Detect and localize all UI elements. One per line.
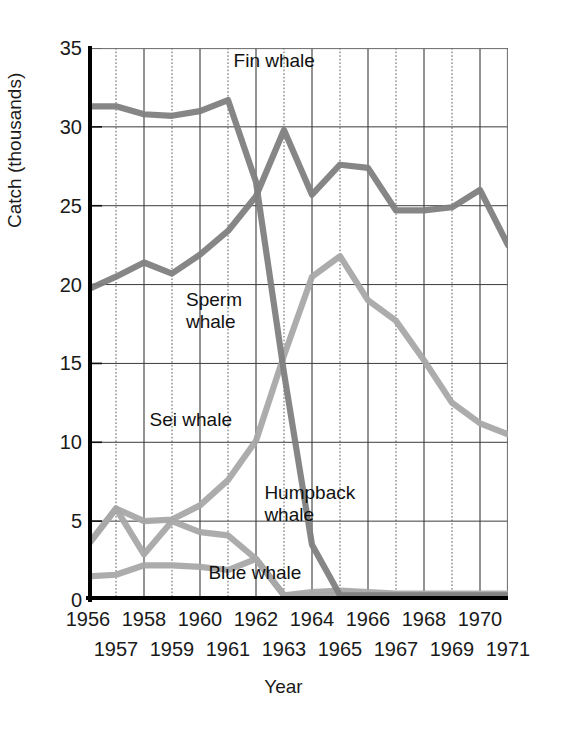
whale-catch-chart: Catch (thousands) 05101520253035 1956195… <box>0 0 567 729</box>
x-tick-row-even: 19561958196019621964196619681970 <box>88 606 518 634</box>
y-tick-25: 25 <box>42 196 82 216</box>
x-tick-1965: 1965 <box>312 636 368 662</box>
series-line-sperm-whale <box>88 130 508 289</box>
annotation-blue-whale: Blue whale <box>208 562 301 584</box>
x-tick-1967: 1967 <box>368 636 424 662</box>
x-tick-1964: 1964 <box>284 606 340 632</box>
y-tick-5: 5 <box>42 511 82 531</box>
x-tick-row-odd: 19571959196119631965196719691971 <box>88 636 518 664</box>
x-axis-title: Year <box>0 676 567 698</box>
y-axis-title: Catch (thousands) <box>4 0 26 228</box>
x-tick-1960: 1960 <box>172 606 228 632</box>
x-tick-1958: 1958 <box>116 606 172 632</box>
x-axis-tick-labels: 19561958196019621964196619681970 1957195… <box>88 606 518 672</box>
annotation-sperm: Sperm whale <box>186 289 242 333</box>
y-tick-15: 15 <box>42 353 82 373</box>
x-tick-1968: 1968 <box>396 606 452 632</box>
x-tick-1961: 1961 <box>200 636 256 662</box>
x-axis-spine <box>86 596 508 600</box>
x-tick-1959: 1959 <box>144 636 200 662</box>
x-tick-1969: 1969 <box>424 636 480 662</box>
annotation-fin-whale: Fin whale <box>234 50 315 72</box>
x-tick-1966: 1966 <box>340 606 396 632</box>
x-tick-1957: 1957 <box>88 636 144 662</box>
x-tick-1971: 1971 <box>480 636 536 662</box>
x-tick-1970: 1970 <box>452 606 508 632</box>
y-tick-10: 10 <box>42 432 82 452</box>
x-tick-1962: 1962 <box>228 606 284 632</box>
annotation-humpback: Humpback whale <box>264 482 355 526</box>
x-tick-1956: 1956 <box>60 606 116 632</box>
y-tick-20: 20 <box>42 275 82 295</box>
y-tick-30: 30 <box>42 117 82 137</box>
y-tick-35: 35 <box>42 38 82 58</box>
y-axis-spine <box>88 46 92 602</box>
x-tick-1963: 1963 <box>256 636 312 662</box>
annotation-sei-whale: Sei whale <box>150 409 232 431</box>
